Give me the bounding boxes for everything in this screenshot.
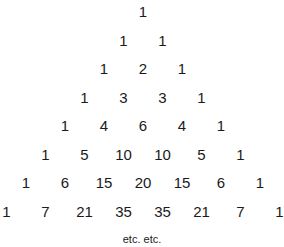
- triangle-number: 1: [217, 116, 225, 136]
- triangle-row: 1615201561: [0, 173, 284, 193]
- triangle-number: 1: [80, 88, 88, 108]
- triangle-number: 1: [275, 202, 283, 222]
- triangle-number: 1: [256, 173, 264, 193]
- triangle-row: 121: [0, 59, 284, 79]
- triangle-number: 5: [197, 145, 205, 165]
- triangle-number: 7: [236, 202, 244, 222]
- triangle-number: 6: [61, 173, 69, 193]
- triangle-number: 1: [139, 2, 147, 22]
- triangle-number: 5: [80, 145, 88, 165]
- triangle-number: 15: [96, 173, 113, 193]
- triangle-number: 35: [154, 202, 171, 222]
- triangle-number: 1: [236, 145, 244, 165]
- triangle-number: 1: [178, 59, 186, 79]
- triangle-number: 15: [174, 173, 191, 193]
- triangle-number: 10: [115, 145, 132, 165]
- triangle-number: 1: [41, 145, 49, 165]
- triangle-number: 1: [2, 202, 10, 222]
- triangle-number: 1: [22, 173, 30, 193]
- triangle-number: 2: [139, 59, 147, 79]
- triangle-row: 14641: [0, 116, 284, 136]
- triangle-row: 1: [0, 2, 284, 22]
- triangle-number: 10: [154, 145, 171, 165]
- triangle-number: 4: [178, 116, 186, 136]
- triangle-number: 20: [135, 173, 152, 193]
- triangle-row: 172135352171: [0, 202, 284, 222]
- triangle-number: 1: [119, 31, 127, 51]
- triangle-row: 15101051: [0, 145, 284, 165]
- triangle-number: 1: [100, 59, 108, 79]
- triangle-number: 3: [158, 88, 166, 108]
- triangle-row: 11: [0, 31, 284, 51]
- continuation-note: etc. etc.: [0, 232, 284, 246]
- triangle-number: 35: [115, 202, 132, 222]
- triangle-number: 6: [139, 116, 147, 136]
- triangle-number: 6: [217, 173, 225, 193]
- triangle-number: 3: [119, 88, 127, 108]
- triangle-number: 1: [158, 31, 166, 51]
- triangle-number: 21: [193, 202, 210, 222]
- triangle-row: 1331: [0, 88, 284, 108]
- triangle-number: 1: [197, 88, 205, 108]
- triangle-number: 4: [100, 116, 108, 136]
- triangle-number: 21: [76, 202, 93, 222]
- triangle-number: 7: [41, 202, 49, 222]
- triangle-number: 1: [61, 116, 69, 136]
